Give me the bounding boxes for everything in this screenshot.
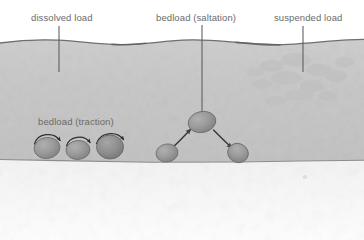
bedload-traction-group — [33, 134, 124, 161]
label-dissolved-load: dissolved load — [31, 12, 93, 23]
label-bedload-traction: bedload (traction) — [38, 116, 114, 127]
bed-grain — [0, 158, 364, 240]
label-suspended-load: suspended load — [274, 12, 342, 23]
bed-speck — [303, 175, 308, 179]
diagram-canvas: dissolved load bedload (saltation) suspe… — [0, 0, 364, 240]
traction-pebble-3 — [96, 135, 124, 160]
label-bedload-saltation: bedload (saltation) — [156, 12, 236, 23]
river-bed — [0, 158, 364, 240]
